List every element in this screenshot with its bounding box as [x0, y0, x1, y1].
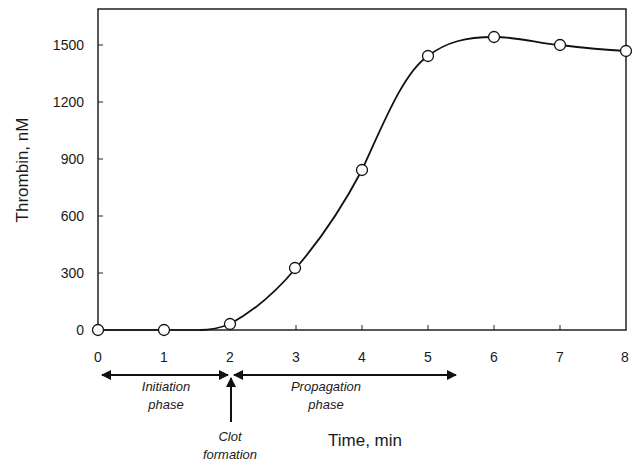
point-t1: [159, 325, 170, 336]
x-tick-4: 4: [358, 349, 366, 365]
point-t3: [290, 263, 301, 274]
point-t0: [93, 325, 104, 336]
clot-label-2: formation: [203, 447, 257, 462]
y-tick-1200: 1200: [53, 94, 84, 110]
point-t4: [357, 165, 368, 176]
propagation-label-1: Propagation: [291, 379, 361, 394]
thrombin-curve: [200, 37, 626, 330]
point-t5: [423, 51, 434, 62]
x-tick-1: 1: [160, 349, 168, 365]
x-tick-8: 8: [621, 349, 629, 365]
propagation-label-2: phase: [307, 397, 343, 412]
y-tick-300: 300: [61, 265, 85, 281]
x-tick-6: 6: [490, 349, 498, 365]
x-tick-2: 2: [226, 349, 234, 365]
y-tick-1500: 1500: [53, 37, 84, 53]
point-t6: [489, 32, 500, 43]
initiation-label-2: phase: [147, 397, 183, 412]
data-markers: [93, 32, 632, 336]
y-tick-900: 900: [61, 151, 85, 167]
point-t8: [621, 46, 632, 57]
y-tick-0: 0: [76, 322, 84, 338]
x-axis-title: Time, min: [328, 431, 402, 450]
x-tick-5: 5: [424, 349, 432, 365]
x-tick-3: 3: [292, 349, 300, 365]
x-tick-7: 7: [556, 349, 564, 365]
x-tick-0: 0: [94, 349, 102, 365]
point-t7: [555, 40, 566, 51]
y-axis-title: Thrombin, nM: [13, 118, 32, 223]
thrombin-chart: 0 300 600 900 1200 1500 0 1 2 3 4 5 6 7 …: [0, 0, 638, 467]
y-tick-600: 600: [61, 208, 85, 224]
point-t2: [225, 319, 236, 330]
initiation-label-1: Initiation: [142, 379, 190, 394]
clot-label-1: Clot: [218, 429, 243, 444]
